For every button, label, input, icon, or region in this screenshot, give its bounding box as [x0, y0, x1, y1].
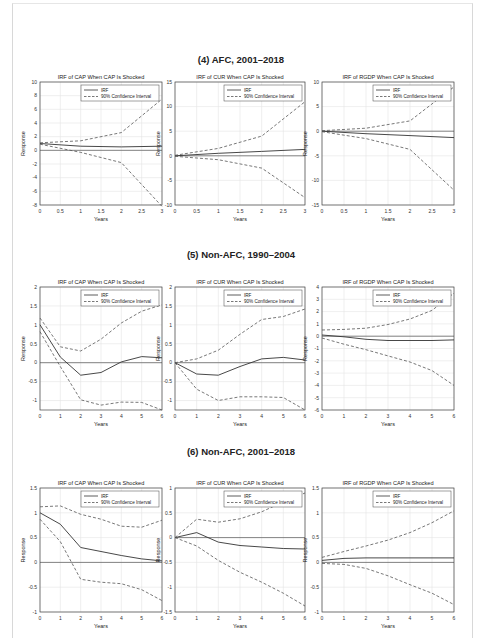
section-title-4: (4) AFC, 2001–2018 — [0, 54, 482, 65]
svg-text:3: 3 — [100, 413, 103, 419]
svg-text:0: 0 — [174, 615, 177, 621]
svg-text:-8: -8 — [33, 202, 38, 208]
svg-text:5: 5 — [140, 413, 143, 419]
svg-text:-5: -5 — [315, 395, 320, 401]
svg-text:15: 15 — [166, 79, 172, 85]
svg-text:-1.5: -1.5 — [163, 609, 172, 615]
svg-text:-6: -6 — [33, 188, 38, 194]
svg-text:10: 10 — [31, 79, 37, 85]
svg-text:3: 3 — [387, 413, 390, 419]
svg-text:-0.5: -0.5 — [163, 378, 172, 384]
irf-chart-4: 0123456-1-0.500.511.52YearsResponseIRF o… — [16, 273, 166, 438]
svg-text:-1: -1 — [33, 609, 38, 615]
svg-text:90% Confidence Interval: 90% Confidence Interval — [244, 94, 294, 99]
svg-text:0.5: 0.5 — [30, 341, 37, 347]
svg-text:IRF of CUR When CAP Is Shocked: IRF of CUR When CAP Is Shocked — [196, 74, 283, 80]
svg-text:3: 3 — [387, 615, 390, 621]
svg-text:2.5: 2.5 — [429, 208, 436, 214]
svg-text:1: 1 — [79, 208, 82, 214]
svg-text:4: 4 — [409, 615, 412, 621]
svg-text:1.5: 1.5 — [30, 485, 37, 491]
svg-text:1.5: 1.5 — [98, 208, 105, 214]
svg-text:-0.5: -0.5 — [28, 378, 37, 384]
svg-text:0.5: 0.5 — [165, 510, 172, 516]
svg-text:4: 4 — [409, 413, 412, 419]
svg-text:0: 0 — [321, 615, 324, 621]
svg-text:1: 1 — [169, 322, 172, 328]
svg-text:-0.5: -0.5 — [310, 584, 319, 590]
svg-text:10: 10 — [166, 103, 172, 109]
svg-text:IRF of RGDP When CAP Is Shocke: IRF of RGDP When CAP Is Shocked — [342, 480, 433, 486]
svg-text:0: 0 — [316, 333, 319, 339]
svg-text:2: 2 — [169, 284, 172, 290]
irf-chart-2: 00.511.522.53-10-5051015YearsResponseIRF… — [151, 68, 309, 233]
svg-text:Response: Response — [155, 336, 161, 361]
svg-text:1.5: 1.5 — [237, 208, 244, 214]
svg-text:5: 5 — [282, 615, 285, 621]
svg-text:-15: -15 — [312, 202, 319, 208]
svg-text:2: 2 — [409, 208, 412, 214]
svg-text:-0.5: -0.5 — [163, 559, 172, 565]
svg-text:2: 2 — [34, 284, 37, 290]
svg-text:8: 8 — [34, 92, 37, 98]
irf-chart-8: 0123456-1.5-1-0.500.51YearsResponseIRF o… — [151, 474, 309, 640]
svg-text:1: 1 — [343, 413, 346, 419]
svg-text:IRF: IRF — [244, 88, 252, 93]
svg-text:0: 0 — [39, 615, 42, 621]
svg-text:Years: Years — [233, 623, 247, 629]
svg-text:2: 2 — [34, 133, 37, 139]
svg-text:5: 5 — [282, 413, 285, 419]
svg-text:4: 4 — [260, 413, 263, 419]
svg-text:Response: Response — [155, 131, 161, 156]
svg-text:1: 1 — [169, 485, 172, 491]
svg-text:1: 1 — [59, 413, 62, 419]
svg-text:1: 1 — [316, 321, 319, 327]
irf-chart-1: 00.511.522.53-8-6-4-20246810YearsRespons… — [16, 68, 166, 233]
svg-text:IRF of CUR When CAP Is Shocked: IRF of CUR When CAP Is Shocked — [196, 279, 283, 285]
svg-text:Years: Years — [94, 421, 108, 427]
svg-text:-0.5: -0.5 — [28, 584, 37, 590]
svg-text:Response: Response — [302, 336, 308, 361]
svg-text:1.5: 1.5 — [30, 303, 37, 309]
svg-text:IRF: IRF — [393, 293, 401, 298]
svg-text:IRF: IRF — [393, 88, 401, 93]
svg-text:Response: Response — [20, 131, 26, 156]
svg-text:IRF of RGDP When CAP Is Shocke: IRF of RGDP When CAP Is Shocked — [342, 74, 433, 80]
svg-text:IRF of CAP When CAP Is Shocked: IRF of CAP When CAP Is Shocked — [58, 279, 145, 285]
svg-text:IRF: IRF — [393, 494, 401, 499]
svg-text:5: 5 — [431, 413, 434, 419]
svg-text:IRF: IRF — [244, 494, 252, 499]
svg-text:0: 0 — [316, 128, 319, 134]
svg-text:2: 2 — [260, 208, 263, 214]
svg-text:IRF: IRF — [101, 293, 109, 298]
svg-text:90% Confidence Interval: 90% Confidence Interval — [101, 500, 151, 505]
svg-text:4: 4 — [34, 120, 37, 126]
svg-text:1: 1 — [34, 510, 37, 516]
svg-text:Years: Years — [233, 421, 247, 427]
svg-text:1: 1 — [195, 615, 198, 621]
svg-text:3: 3 — [239, 615, 242, 621]
svg-text:6: 6 — [34, 106, 37, 112]
svg-text:1: 1 — [34, 322, 37, 328]
svg-text:Years: Years — [94, 623, 108, 629]
svg-text:-1: -1 — [315, 609, 320, 615]
svg-text:Years: Years — [233, 216, 247, 222]
svg-text:0.5: 0.5 — [165, 341, 172, 347]
svg-text:2: 2 — [79, 413, 82, 419]
svg-text:90% Confidence Interval: 90% Confidence Interval — [393, 500, 443, 505]
svg-text:90% Confidence Interval: 90% Confidence Interval — [393, 299, 443, 304]
irf-chart-7: 0123456-1-0.500.511.5YearsResponseIRF of… — [16, 474, 166, 640]
svg-text:0: 0 — [174, 413, 177, 419]
svg-text:0.5: 0.5 — [30, 534, 37, 540]
svg-text:3: 3 — [100, 615, 103, 621]
svg-text:0: 0 — [321, 208, 324, 214]
svg-text:-1: -1 — [168, 584, 173, 590]
svg-text:Response: Response — [302, 538, 308, 563]
svg-text:90% Confidence Interval: 90% Confidence Interval — [244, 299, 294, 304]
svg-text:-5: -5 — [315, 153, 320, 159]
svg-text:2.5: 2.5 — [280, 208, 287, 214]
svg-text:-6: -6 — [315, 407, 320, 413]
svg-text:5: 5 — [431, 615, 434, 621]
svg-text:0: 0 — [316, 559, 319, 565]
svg-text:2.5: 2.5 — [138, 208, 145, 214]
